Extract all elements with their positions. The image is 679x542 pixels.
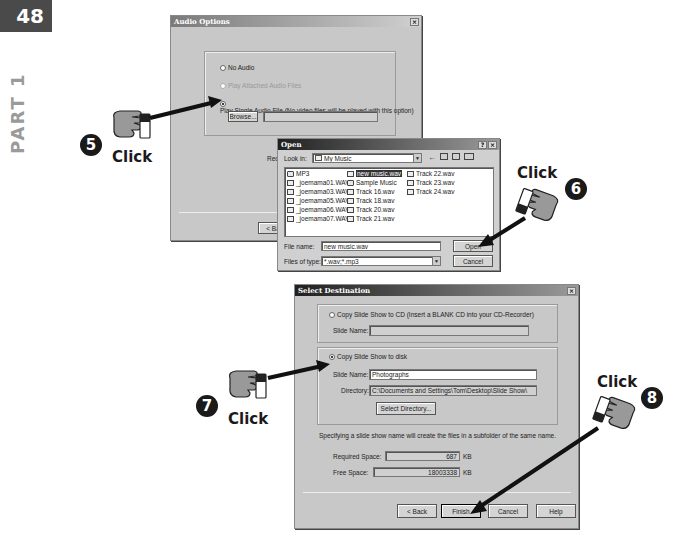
arrow-to-finish xyxy=(0,0,679,542)
